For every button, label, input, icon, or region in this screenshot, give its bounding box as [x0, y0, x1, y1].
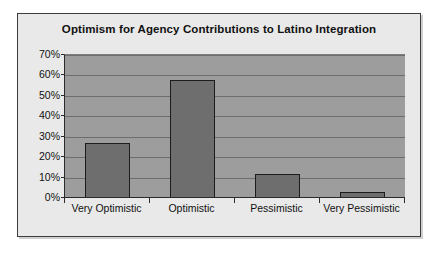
- y-axis-tick-label: 40%: [20, 109, 60, 121]
- y-axis: 70%60%50%40%30%20%10%0%: [18, 54, 60, 197]
- y-axis-tick-label: 30%: [20, 130, 60, 142]
- x-axis-category-label: Optimistic: [149, 202, 234, 214]
- bar: [85, 143, 130, 198]
- x-axis-tick: [319, 198, 320, 203]
- x-axis-tick: [149, 198, 150, 203]
- plot-area: [64, 54, 405, 198]
- y-axis-tick-label: 20%: [20, 150, 60, 162]
- gridline: [65, 55, 405, 56]
- chart-title: Optimism for Agency Contributions to Lat…: [18, 23, 420, 35]
- gridline: [65, 137, 405, 138]
- gridline: [65, 75, 405, 76]
- gridline: [65, 96, 405, 97]
- x-axis-tick: [64, 198, 65, 203]
- bar: [170, 80, 215, 198]
- x-axis-tick: [234, 198, 235, 203]
- x-axis-category-label: Very Pessimistic: [319, 202, 404, 214]
- chart-container: Optimism for Agency Contributions to Lat…: [17, 13, 421, 237]
- x-axis-category-label: Very Optimistic: [64, 202, 149, 214]
- gridline: [65, 116, 405, 117]
- y-axis-tick-label: 0%: [20, 191, 60, 203]
- y-axis-tick-label: 70%: [20, 48, 60, 60]
- y-axis-tick-label: 50%: [20, 89, 60, 101]
- bar: [255, 174, 300, 199]
- x-axis-category-label: Pessimistic: [234, 202, 319, 214]
- y-axis-tick-label: 60%: [20, 68, 60, 80]
- x-axis-tick: [404, 198, 405, 203]
- y-axis-tick-label: 10%: [20, 171, 60, 183]
